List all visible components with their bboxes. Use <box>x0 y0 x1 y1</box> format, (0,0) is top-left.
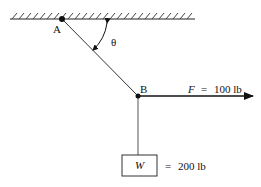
angle-arc <box>93 23 107 50</box>
weight-symbol: W <box>135 160 144 171</box>
ceiling-support <box>10 13 195 19</box>
force-symbol: F <box>188 84 195 95</box>
force-equals: = <box>201 84 207 95</box>
weight-equals: = <box>165 161 171 172</box>
point-a <box>59 16 65 22</box>
label-theta: θ <box>111 37 116 48</box>
label-a: A <box>53 24 61 35</box>
weight-value: 200 lb <box>178 161 206 172</box>
force-value: 100 lb <box>214 84 242 95</box>
label-b: B <box>140 84 147 95</box>
cable-ab <box>62 19 138 96</box>
